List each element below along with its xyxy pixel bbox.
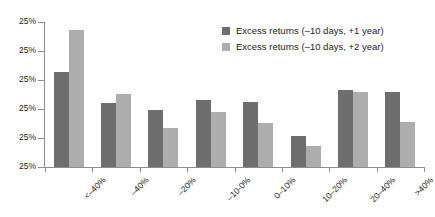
bar-series-2 (69, 30, 84, 167)
bar-series-1 (148, 110, 163, 167)
legend-item[interactable]: Excess returns (–10 days, +2 year) (222, 40, 384, 54)
y-axis-label: 25% (2, 46, 36, 55)
chart-legend: Excess returns (–10 days, +1 year)Excess… (222, 24, 384, 56)
bar-series-1 (385, 92, 400, 167)
x-axis-tick (424, 167, 425, 172)
x-axis-label: 10–20% (320, 175, 349, 204)
bar-series-2 (116, 94, 131, 167)
x-axis-label: –10-0% (225, 175, 253, 203)
bar-group (101, 22, 131, 167)
x-axis-label: >40% (412, 175, 435, 198)
x-axis-label: 20–40% (368, 175, 397, 204)
x-axis-label: 0–10% (272, 175, 298, 201)
x-axis-tick (45, 167, 46, 172)
bar-series-1 (196, 100, 211, 167)
legend-label: Excess returns (–10 days, +1 year) (236, 26, 384, 36)
x-axis-tick (140, 167, 141, 172)
bar-series-1 (101, 103, 116, 167)
bar-series-1 (338, 90, 353, 167)
y-axis-label: 25% (2, 162, 36, 171)
legend-swatch-icon (222, 27, 230, 35)
y-axis-label: 25% (2, 104, 36, 113)
bar-series-2 (163, 128, 178, 167)
legend-swatch-icon (222, 43, 230, 51)
y-axis-label: 25% (2, 75, 36, 84)
bar-series-2 (353, 92, 368, 167)
bar-series-2 (211, 112, 226, 167)
y-axis-label: 25% (2, 133, 36, 142)
bar-series-2 (400, 122, 415, 167)
bar-series-2 (258, 123, 273, 167)
bar-series-1 (54, 72, 69, 167)
bar-series-1 (243, 102, 258, 167)
legend-item[interactable]: Excess returns (–10 days, +1 year) (222, 24, 384, 38)
x-axis-label: –40% (128, 175, 150, 197)
bar-series-2 (306, 146, 321, 167)
bar-series-1 (291, 136, 306, 167)
x-axis-label: <–40% (82, 175, 108, 201)
x-axis-tick (235, 167, 236, 172)
x-axis-tick (282, 167, 283, 172)
bar-group (148, 22, 178, 167)
x-axis-label: –20% (175, 175, 197, 197)
bar-group (385, 22, 415, 167)
x-axis-tick (187, 167, 188, 172)
legend-label: Excess returns (–10 days, +2 year) (236, 42, 384, 52)
x-axis-tick (377, 167, 378, 172)
y-axis-label: 25% (2, 17, 36, 26)
x-axis-tick (92, 167, 93, 172)
x-axis-tick (329, 167, 330, 172)
bar-group (54, 22, 84, 167)
